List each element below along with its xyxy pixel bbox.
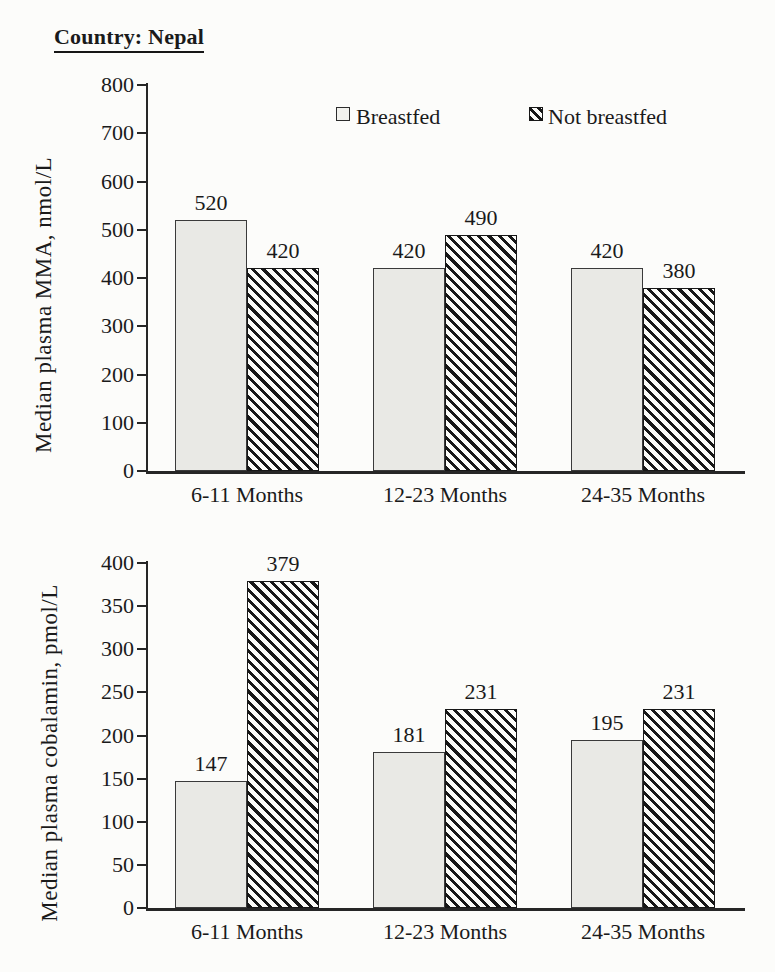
bar-breastfed	[373, 268, 445, 471]
bar-value-label: 520	[150, 190, 272, 216]
category-label: 24-35 Months	[548, 482, 738, 508]
bar-value-label: 195	[546, 710, 668, 736]
y-tick-label: 0	[64, 895, 134, 921]
y-axis-tick	[137, 470, 146, 472]
y-axis-tick	[137, 325, 146, 327]
category-label: 24-35 Months	[548, 919, 738, 945]
bar-value-label: 181	[348, 722, 470, 748]
bar-not-breastfed	[445, 235, 517, 471]
mma-chart: 01002003004005006007008006-11 Months5204…	[0, 0, 775, 972]
bar-breastfed	[373, 752, 445, 908]
y-tick-label: 200	[64, 723, 134, 749]
bar-value-label: 231	[618, 679, 740, 705]
y-axis-tick	[137, 648, 146, 650]
y-tick-label: 350	[64, 593, 134, 619]
y-axis-tick	[137, 374, 146, 376]
bar-value-label: 420	[348, 238, 470, 264]
bar-not-breastfed	[643, 288, 715, 471]
category-label: 6-11 Months	[152, 482, 342, 508]
y-axis-tick	[137, 277, 146, 279]
category-label: 6-11 Months	[152, 919, 342, 945]
y-tick-label: 200	[64, 362, 134, 388]
y-axis-title: Median plasma MMA, nmol/L	[31, 157, 57, 453]
y-axis-tick	[137, 821, 146, 823]
y-axis-tick	[137, 132, 146, 134]
legend-label: Not breastfed	[548, 104, 667, 130]
legend-label: Breastfed	[356, 104, 440, 130]
bar-not-breastfed	[643, 709, 715, 908]
y-tick-label: 300	[64, 313, 134, 339]
bar-breastfed	[571, 268, 643, 471]
y-axis-tick	[137, 907, 146, 909]
y-axis-tick	[137, 181, 146, 183]
cobalamin-chart: 0501001502002503003504006-11 Months14737…	[0, 0, 775, 972]
y-tick-label: 100	[64, 410, 134, 436]
y-axis-tick	[137, 84, 146, 86]
figure-title: Country: Nepal	[54, 24, 204, 53]
y-axis-title: Median plasma cobalamin, pmol/L	[37, 584, 63, 921]
y-axis-tick	[137, 735, 146, 737]
bar-value-label: 420	[546, 238, 668, 264]
figure-page: Country: Nepal 0100200300400500600700800…	[0, 0, 775, 972]
y-tick-label: 0	[64, 458, 134, 484]
category-label: 12-23 Months	[350, 919, 540, 945]
y-tick-label: 250	[64, 679, 134, 705]
y-axis-tick	[137, 605, 146, 607]
y-tick-label: 500	[64, 217, 134, 243]
bar-breastfed	[175, 781, 247, 908]
bar-not-breastfed	[247, 268, 319, 471]
bar-value-label: 231	[420, 679, 542, 705]
y-axis-line	[146, 83, 149, 471]
category-label: 12-23 Months	[350, 482, 540, 508]
bar-value-label: 490	[420, 205, 542, 231]
y-tick-label: 50	[64, 852, 134, 878]
y-axis-tick	[137, 864, 146, 866]
legend-swatch-breastfed	[336, 107, 350, 121]
y-tick-label: 600	[64, 169, 134, 195]
bar-not-breastfed	[247, 581, 319, 908]
legend-swatch-not-breastfed	[529, 107, 543, 121]
bar-value-label: 379	[222, 551, 344, 577]
y-tick-label: 800	[64, 72, 134, 98]
bar-value-label: 420	[222, 238, 344, 264]
y-tick-label: 100	[64, 809, 134, 835]
y-axis-tick	[137, 422, 146, 424]
bar-not-breastfed	[445, 709, 517, 908]
y-axis-tick	[137, 229, 146, 231]
y-axis-tick	[137, 778, 146, 780]
y-tick-label: 150	[64, 766, 134, 792]
y-tick-label: 700	[64, 120, 134, 146]
bar-value-label: 380	[618, 258, 740, 284]
bar-breastfed	[571, 740, 643, 908]
y-axis-tick	[137, 691, 146, 693]
x-axis-line	[146, 908, 746, 911]
y-axis-line	[146, 561, 149, 908]
bar-breastfed	[175, 220, 247, 471]
x-axis-line	[146, 471, 746, 474]
bar-value-label: 147	[150, 751, 272, 777]
y-tick-label: 400	[64, 550, 134, 576]
y-tick-label: 400	[64, 265, 134, 291]
y-tick-label: 300	[64, 636, 134, 662]
y-axis-tick	[137, 562, 146, 564]
